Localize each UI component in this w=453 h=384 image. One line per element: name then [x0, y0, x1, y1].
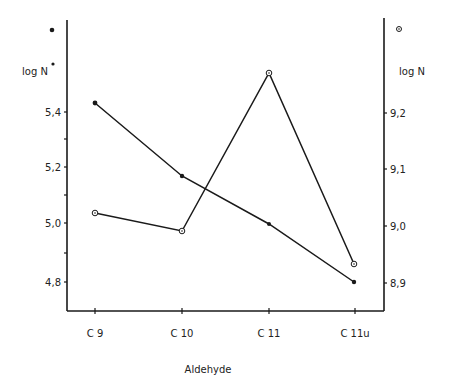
- series-open-markers: [92, 70, 357, 267]
- filled-marker-superscript-icon: [51, 62, 54, 65]
- right-tick-label: 9,2: [390, 108, 406, 119]
- right-y-axis-title: log N: [399, 66, 425, 77]
- left-tick-label: 5,2: [45, 162, 61, 173]
- x-axis-title: Aldehyde: [185, 364, 232, 375]
- x-tick-label: C 11u: [340, 328, 369, 339]
- left-tick-label: 5,0: [45, 218, 61, 229]
- right-tick-label: 8,9: [390, 278, 406, 289]
- filled-marker-legend-icon: [50, 28, 55, 33]
- left-y-axis-title: log N: [22, 66, 48, 77]
- x-tick-label: C 10: [171, 328, 194, 339]
- right-tick-label: 9,0: [390, 221, 406, 232]
- left-tick-label: 5,4: [45, 107, 61, 118]
- x-tick-label: C 9: [87, 328, 104, 339]
- series-open-line: [95, 73, 354, 264]
- left-tick-label: 4,8: [45, 277, 61, 288]
- dual-axis-line-chart: 5,4 5,2 5,0 4,8 9,2 9,1 9,0 8,9 C 9 C 10…: [0, 0, 453, 384]
- right-tick-label: 9,1: [390, 164, 406, 175]
- series-filled-line: [95, 103, 354, 282]
- x-tick-label: C 11: [258, 328, 281, 339]
- open-marker-legend-dot-icon: [398, 28, 400, 30]
